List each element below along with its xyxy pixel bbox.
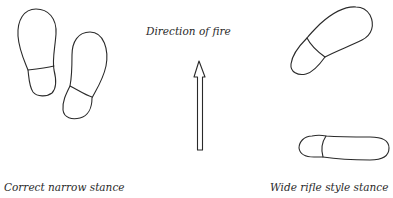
- narrow-stance-right-foot-icon: [63, 32, 107, 119]
- direction-of-fire-label: Direction of fire: [146, 25, 231, 37]
- wide-stance-front-foot-icon: [291, 7, 372, 75]
- wide-stance-rear-foot-icon: [299, 135, 389, 160]
- narrow-stance-caption: Correct narrow stance: [4, 181, 124, 193]
- narrow-stance-left-foot-icon: [18, 9, 56, 96]
- direction-arrow-icon: [194, 61, 205, 150]
- wide-stance-caption: Wide rifle style stance: [270, 181, 388, 193]
